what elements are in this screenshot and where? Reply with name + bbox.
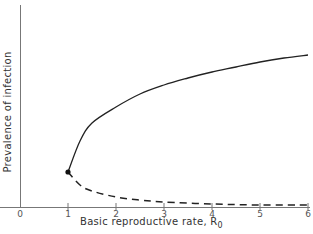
x-tick-label: 0 xyxy=(17,209,23,219)
bifurcation-point-marker xyxy=(65,169,70,174)
x-axis-ticks xyxy=(68,203,308,210)
x-tick-label: 5 xyxy=(257,209,263,219)
x-tick-label: 6 xyxy=(305,209,311,219)
unstable-equilibrium-curve xyxy=(68,172,308,205)
x-axis-label: Basic reproductive rate, R0 xyxy=(80,216,223,230)
x-axis-label-subscript: 0 xyxy=(218,221,223,230)
x-tick-label: 1 xyxy=(65,209,71,219)
stable-equilibrium-curve xyxy=(68,55,308,172)
x-axis-label-main: Basic reproductive rate, R xyxy=(80,216,218,227)
bifurcation-chart: 0123456 Prevalence of infection Basic re… xyxy=(0,0,313,234)
y-axis-label: Prevalence of infection xyxy=(2,51,13,172)
